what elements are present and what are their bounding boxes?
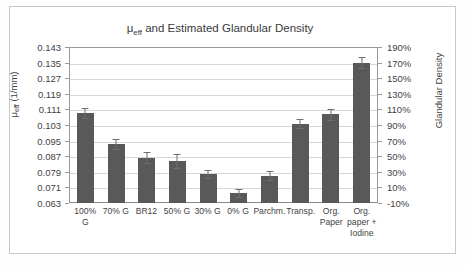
y-axis-right-tick-mark (378, 172, 382, 173)
error-bar-cap-bottom (358, 68, 365, 69)
x-axis-labels: 100% G70% GBR1250% G30% G0% GParchm.Tran… (70, 206, 377, 239)
bar-series (70, 47, 377, 203)
error-bar-cap-bottom (143, 163, 150, 164)
bar-slot (224, 47, 255, 203)
error-bar-cap-bottom (266, 180, 273, 181)
bar-slot (193, 47, 224, 203)
error-bar-cap-top (327, 109, 334, 110)
bar-slot (346, 47, 377, 203)
error-bar (146, 152, 147, 163)
error-bar-cap-top (174, 154, 181, 155)
y-axis-right-ticks: 190%170%150%130%110%90%70%50%30%10%-10% (378, 47, 428, 204)
y-axis-right-tick-label: 30% (387, 166, 406, 177)
error-bar (300, 119, 301, 128)
y-axis-right-tick-label: 50% (387, 151, 406, 162)
x-axis-category-label: Transp. (285, 206, 316, 239)
bar-slot (285, 47, 316, 203)
y-axis-left-tick-label: 0.095 (37, 135, 61, 146)
y-axis-left-tick-label: 0.063 (37, 198, 61, 209)
y-axis-left-tick-label: 0.119 (38, 88, 61, 99)
y-axis-right-tick-label: 170% (387, 57, 411, 68)
y-axis-right-tick-label: 90% (387, 120, 406, 131)
y-axis-right-tick-label: 10% (387, 182, 406, 193)
chart-title: μeff and Estimated Glandular Density (60, 22, 380, 37)
bar-slot (162, 47, 193, 203)
error-bar (208, 170, 209, 178)
y-axis-right-tick-mark (378, 63, 382, 64)
error-bar-cap-top (113, 139, 120, 140)
bar-slot (316, 47, 347, 203)
y-axis-right-tick-mark (378, 203, 382, 204)
y-axis-right-tick-label: 70% (387, 135, 406, 146)
y-axis-right-tick-mark (378, 156, 382, 157)
y-axis-left-tick-label: 0.143 (37, 42, 61, 53)
x-axis-category-label: Parchm. (253, 206, 285, 239)
error-bar-cap-top (143, 152, 150, 153)
bar-slot (70, 47, 101, 203)
x-axis-category-label: Org.Paper (316, 206, 347, 239)
error-bar-cap-bottom (235, 197, 242, 198)
y-axis-right-tick-mark (378, 141, 382, 142)
x-axis-category-label: Org.paper +Iodine (347, 206, 378, 239)
y-axis-right-tick-mark (378, 109, 382, 110)
error-bar (85, 108, 86, 118)
error-bar-cap-top (235, 189, 242, 190)
error-bar-cap-bottom (297, 128, 304, 129)
y-axis-right-tick-label: 150% (387, 73, 411, 84)
y-axis-right-title: Glandular Density (433, 45, 444, 137)
y-axis-left-tick-label: 0.135 (37, 57, 61, 68)
x-axis-category-label: 100% G (70, 206, 101, 239)
error-bar-cap-top (82, 108, 89, 109)
bar (138, 158, 155, 203)
y-axis-right-tick-mark (378, 125, 382, 126)
y-axis-left-tick-mark (65, 203, 69, 204)
y-axis-left-tick-label: 0.111 (39, 104, 61, 115)
bar (169, 161, 186, 203)
y-axis-left-tick-label: 0.103 (37, 120, 61, 131)
error-bar-cap-top (358, 57, 365, 58)
error-bar-cap-bottom (113, 149, 120, 150)
error-bar (361, 57, 362, 69)
y-axis-left-tick-label: 0.127 (37, 73, 61, 84)
error-bar (116, 139, 117, 149)
chart-title-subscript: eff (133, 28, 142, 37)
y-axis-left-tick-label: 0.087 (37, 151, 61, 162)
error-bar (238, 189, 239, 197)
bar (261, 176, 278, 203)
y-axis-right-tick-mark (378, 187, 382, 188)
error-bar-cap-top (266, 171, 273, 172)
error-bar-cap-top (297, 119, 304, 120)
bar (322, 114, 339, 203)
x-axis-category-label: 70% G (101, 206, 132, 239)
error-bar (330, 109, 331, 120)
error-bar-cap-bottom (205, 178, 212, 179)
x-axis-category-label: 50% G (162, 206, 193, 239)
y-axis-right-tick-label: 190% (387, 42, 411, 53)
y-axis-right-tick-label: -10% (387, 198, 409, 209)
x-axis-category-label: BR12 (131, 206, 162, 239)
bar (108, 144, 125, 203)
error-bar (177, 154, 178, 168)
error-bar-cap-bottom (174, 168, 181, 169)
bar-slot (101, 47, 132, 203)
bar (230, 193, 247, 203)
bar (77, 113, 94, 203)
x-axis-category-label: 30% G (192, 206, 223, 239)
y-axis-left-tick-label: 0.071 (37, 182, 61, 193)
error-bar (269, 171, 270, 180)
bar-slot (254, 47, 285, 203)
bar-slot (131, 47, 162, 203)
y-axis-right-tick-mark (378, 78, 382, 79)
error-bar-cap-bottom (82, 118, 89, 119)
y-axis-left-tick-label: 0.079 (37, 166, 61, 177)
x-axis-category-label: 0% G (223, 206, 254, 239)
bar (200, 174, 217, 203)
y-axis-right-tick-label: 110% (387, 104, 411, 115)
y-axis-right-tick-mark (378, 47, 382, 48)
y-axis-left-ticks: 0.1430.1350.1270.1190.1110.1030.0950.087… (0, 47, 69, 204)
chart-title-rest: and Estimated Glandular Density (142, 22, 313, 34)
bar (292, 124, 309, 203)
error-bar-cap-bottom (327, 120, 334, 121)
error-bar-cap-top (205, 170, 212, 171)
y-axis-right-tick-mark (378, 94, 382, 95)
